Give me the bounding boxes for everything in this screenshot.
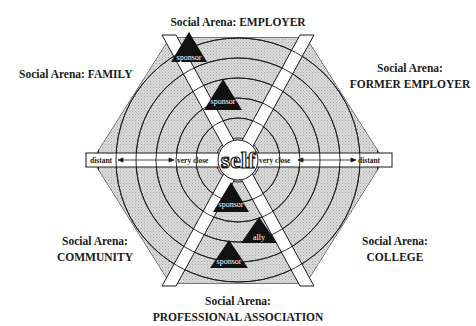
arena-label-family: Social Arena: FAMILY xyxy=(19,66,133,82)
arena-label-former-employer: Social Arena: FORMER EMPLOYER xyxy=(348,60,472,92)
axis-label-right-distant: distant xyxy=(358,156,381,165)
svg-text:ally: ally xyxy=(253,233,265,242)
arena-label-employer: Social Arena: EMPLOYER xyxy=(170,14,306,30)
social-arena-diagram: distant very close very close distant se… xyxy=(0,0,476,326)
svg-text:sponsor: sponsor xyxy=(177,53,202,62)
arena-label-college: Social Arena: COLLEGE xyxy=(355,233,435,265)
self-label: self xyxy=(221,147,257,173)
svg-text:sponsor: sponsor xyxy=(217,257,242,266)
svg-text:sponsor: sponsor xyxy=(219,200,244,209)
self-node: self xyxy=(218,140,258,180)
arena-label-community: Social Arena: COMMUNITY xyxy=(55,233,135,265)
axis-label-right-very-close: very close xyxy=(259,156,291,165)
arena-label-professional-association: Social Arena: PROFESSIONAL ASSOCIATION xyxy=(148,293,328,325)
axis-label-left-very-close: very close xyxy=(177,156,209,165)
svg-text:sponsor: sponsor xyxy=(211,97,236,106)
axis-label-left-distant: distant xyxy=(90,156,113,165)
